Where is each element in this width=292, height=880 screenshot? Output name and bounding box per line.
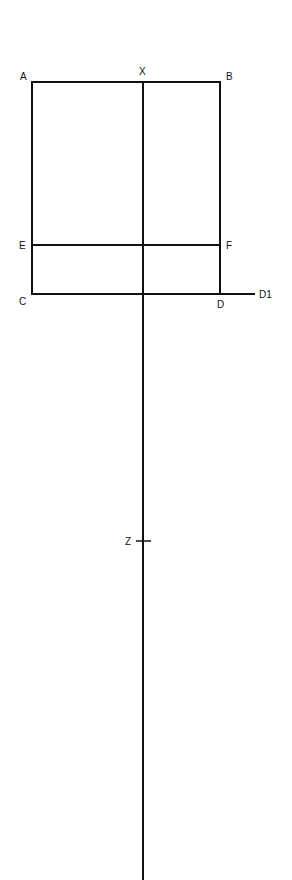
label-c: C (19, 296, 26, 307)
label-d1: D1 (259, 289, 272, 300)
geometric-construction-diagram: A X B E F C D D1 Z (0, 0, 292, 880)
label-a: A (20, 71, 27, 82)
label-e: E (19, 240, 26, 251)
label-b: B (226, 71, 233, 82)
label-f: F (226, 240, 232, 251)
label-d: D (217, 299, 224, 310)
label-z: Z (125, 536, 131, 547)
label-x: X (139, 66, 146, 77)
